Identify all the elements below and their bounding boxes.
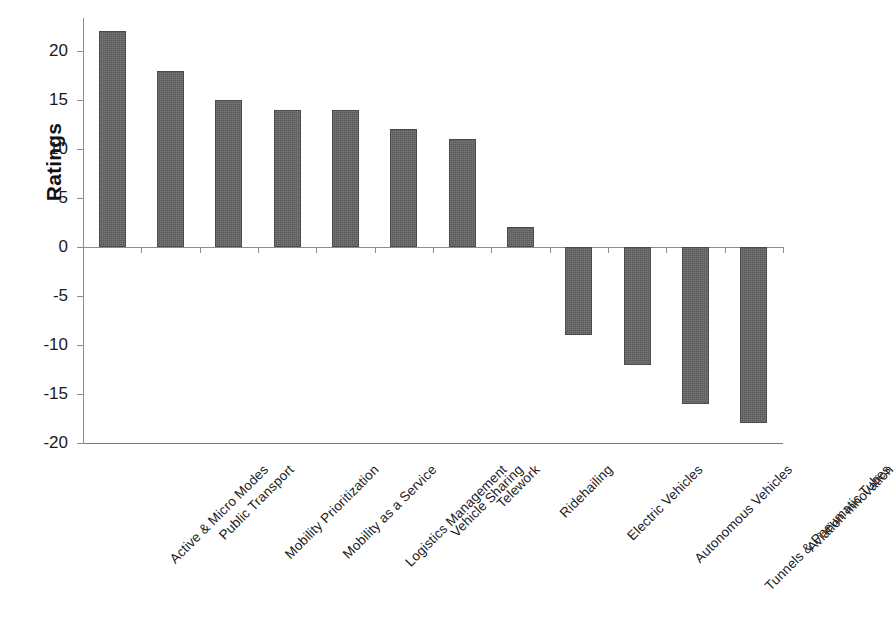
x-axis-label: Active & Micro Modes	[167, 462, 271, 566]
x-tick	[141, 247, 142, 253]
x-tick	[375, 247, 376, 253]
y-tick-label: 0	[22, 237, 68, 257]
bar	[449, 139, 476, 247]
y-tick-label: 5	[22, 188, 68, 208]
bar	[390, 129, 417, 247]
x-tick	[200, 247, 201, 253]
bar	[332, 110, 359, 247]
bar	[215, 100, 242, 247]
x-tick	[316, 247, 317, 253]
bar	[274, 110, 301, 247]
x-tick	[258, 247, 259, 253]
y-tick: 10	[77, 149, 84, 150]
x-tick	[666, 247, 667, 253]
y-tick: -5	[77, 296, 84, 297]
x-tick	[433, 247, 434, 253]
y-tick: 5	[77, 198, 84, 199]
x-axis-label: Ridehailing	[556, 462, 615, 521]
x-axis-label: Aviation Innovation	[804, 462, 896, 554]
bar	[157, 71, 184, 247]
y-tick-label: -15	[22, 384, 68, 404]
y-tick-label: 15	[22, 90, 68, 110]
bar	[99, 31, 126, 247]
bar	[624, 247, 651, 365]
y-tick-label: 20	[22, 41, 68, 61]
y-tick: -15	[77, 394, 84, 395]
y-tick: 20	[77, 51, 84, 52]
x-tick	[83, 247, 84, 253]
y-tick-label: -10	[22, 335, 68, 355]
plot-area: 20151050-5-10-15-20	[83, 18, 783, 444]
x-tick	[491, 247, 492, 253]
x-tick	[550, 247, 551, 253]
bar	[682, 247, 709, 404]
y-tick: -20	[77, 443, 84, 444]
y-axis-line	[83, 18, 84, 444]
y-tick-label: 10	[22, 139, 68, 159]
y-tick: -10	[77, 345, 84, 346]
x-tick	[608, 247, 609, 253]
chart-bottom-border	[83, 443, 783, 444]
x-tick	[725, 247, 726, 253]
y-tick-label: -20	[22, 433, 68, 453]
y-tick: 15	[77, 100, 84, 101]
x-axis-label: Mobility Prioritization	[282, 462, 382, 562]
bar	[507, 227, 534, 247]
x-axis-label: Autonomous Vehicles	[692, 462, 796, 566]
y-tick-label: -5	[22, 286, 68, 306]
x-tick	[783, 247, 784, 253]
bar	[740, 247, 767, 423]
bar	[565, 247, 592, 335]
x-axis-label: Electric Vehicles	[624, 462, 705, 543]
